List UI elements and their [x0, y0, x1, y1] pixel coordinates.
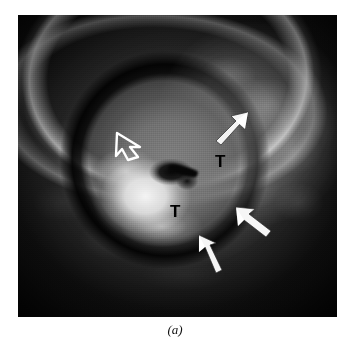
scan-image: T T — [18, 15, 337, 317]
tumour-label-superior: T — [215, 153, 225, 170]
figure-root: T T (a) — [0, 0, 350, 350]
figure-caption: (a) — [0, 322, 350, 338]
scan-vignette — [18, 15, 337, 317]
tumour-label-inferior: T — [170, 203, 180, 220]
